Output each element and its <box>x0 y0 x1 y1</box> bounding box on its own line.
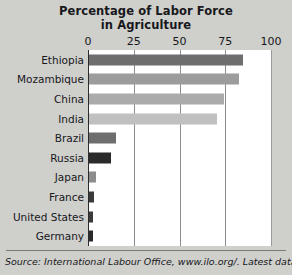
source-note: Source: International Labour Office, www… <box>5 256 289 267</box>
category-label-china: China <box>0 93 84 105</box>
chart-title-line-1: Percentage of Labor Force <box>59 4 233 18</box>
bar-row: Russia <box>0 148 292 168</box>
bar-row: China <box>0 89 292 109</box>
x-tick-label-0: 0 <box>85 35 92 48</box>
bar-row: Brazil <box>0 128 292 148</box>
bar-ethiopia <box>89 54 243 65</box>
x-tick-label-50: 50 <box>173 35 187 48</box>
category-label-mozambique: Mozambique <box>0 73 84 85</box>
bar-row: United States <box>0 207 292 227</box>
x-tick-label-25: 25 <box>127 35 141 48</box>
bar-germany <box>89 231 93 242</box>
bar-japan <box>89 172 96 183</box>
bar-mozambique <box>89 74 239 85</box>
chart-figure: Percentage of Labor Force in Agriculture… <box>0 0 292 275</box>
category-label-ethiopia: Ethiopia <box>0 54 84 66</box>
category-label-japan: Japan <box>0 171 84 183</box>
bar-row: Japan <box>0 168 292 188</box>
category-label-india: India <box>0 113 84 125</box>
category-label-united-states: United States <box>0 211 84 223</box>
x-tick-label-100: 100 <box>261 35 282 48</box>
chart-title: Percentage of Labor Force in Agriculture <box>0 4 292 32</box>
category-label-russia: Russia <box>0 152 84 164</box>
bar-row: France <box>0 187 292 207</box>
category-label-brazil: Brazil <box>0 132 84 144</box>
x-axis-tick-labels: 0255075100 <box>0 35 292 49</box>
bar-brazil <box>89 133 116 144</box>
chart-title-line-2: in Agriculture <box>0 18 292 32</box>
bar-row: India <box>0 109 292 129</box>
bar-rows: EthiopiaMozambiqueChinaIndiaBrazilRussia… <box>0 50 292 246</box>
bar-row: Ethiopia <box>0 50 292 70</box>
bar-india <box>89 113 217 124</box>
bar-russia <box>89 152 111 163</box>
category-label-france: France <box>0 191 84 203</box>
footer-divider <box>6 250 286 251</box>
category-label-germany: Germany <box>0 230 84 242</box>
bar-row: Germany <box>0 226 292 246</box>
bar-china <box>89 93 224 104</box>
bar-united-states <box>89 211 93 222</box>
bar-france <box>89 191 94 202</box>
bar-row: Mozambique <box>0 70 292 90</box>
x-tick-label-75: 75 <box>218 35 232 48</box>
